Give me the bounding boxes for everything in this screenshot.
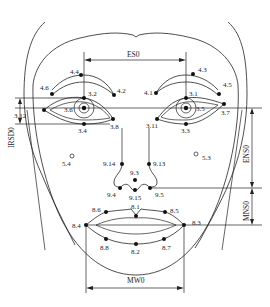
svg-text:3.4: 3.4: [78, 127, 87, 135]
svg-text:8.5: 8.5: [170, 207, 179, 215]
left-eyebrow: 4.6 4.4 4.2: [40, 68, 126, 97]
svg-text:3.5: 3.5: [196, 105, 205, 113]
es0-dimension: ES0: [84, 50, 186, 100]
svg-text:9.15: 9.15: [129, 194, 142, 202]
irisd0-dimension: IRSD0: [7, 98, 22, 148]
svg-text:5.4: 5.4: [62, 160, 71, 168]
svg-text:3.2: 3.2: [88, 90, 97, 98]
svg-text:9.3: 9.3: [130, 169, 139, 177]
right-eye: 3.1 3.5 3.11 3.3 3.7: [146, 90, 230, 135]
mns0-label: MNS0: [242, 201, 251, 221]
mns0-dimension: MNS0: [242, 188, 254, 225]
left-eye: 3.2 3.6 3.12 3.4 3.8: [14, 90, 119, 135]
nose: 9.14 9.13 9.3 9.4 9.15 9.5: [103, 128, 166, 202]
ens0-dimension: ENS0: [242, 108, 254, 188]
svg-text:8.7: 8.7: [162, 244, 171, 252]
es0-label: ES0: [127, 50, 140, 59]
svg-text:4.3: 4.3: [198, 66, 207, 74]
svg-text:3.6: 3.6: [64, 106, 73, 114]
svg-text:3.3: 3.3: [181, 127, 190, 135]
cheek-points: 5.4 5.3: [62, 152, 211, 168]
svg-text:4.6: 4.6: [40, 84, 49, 92]
svg-text:8.3: 8.3: [192, 219, 201, 227]
svg-text:8.8: 8.8: [100, 244, 109, 252]
svg-text:8.2: 8.2: [131, 248, 140, 256]
svg-text:8.6: 8.6: [92, 206, 101, 214]
svg-text:3.7: 3.7: [221, 109, 230, 117]
svg-text:3.8: 3.8: [110, 123, 119, 131]
svg-text:8.4: 8.4: [72, 222, 81, 230]
svg-text:3.1: 3.1: [189, 90, 198, 98]
svg-text:4.4: 4.4: [70, 68, 79, 76]
svg-text:3.11: 3.11: [146, 122, 158, 130]
svg-text:9.14: 9.14: [103, 160, 116, 168]
face-feature-diagram: ES0 IRSD0 4.6 4.4 4.2 4.1 4.3 4.5: [0, 0, 270, 307]
svg-text:9.4: 9.4: [107, 191, 116, 199]
svg-text:3.12: 3.12: [14, 112, 27, 120]
ens0-label: ENS0: [242, 145, 251, 163]
svg-text:8.1: 8.1: [131, 203, 140, 211]
mouth: 8.6 8.1 8.5 8.4 8.3 8.8 8.2 8.7: [72, 203, 201, 256]
svg-text:4.2: 4.2: [117, 87, 126, 95]
mw0-label: MW0: [127, 276, 145, 285]
svg-text:9.5: 9.5: [155, 191, 164, 199]
irisd0-label: IRSD0: [7, 127, 16, 148]
svg-text:4.1: 4.1: [144, 89, 153, 97]
svg-text:5.3: 5.3: [202, 154, 211, 162]
svg-text:9.13: 9.13: [153, 160, 166, 168]
svg-text:4.5: 4.5: [223, 81, 232, 89]
right-jaw-guide: [222, 110, 242, 250]
